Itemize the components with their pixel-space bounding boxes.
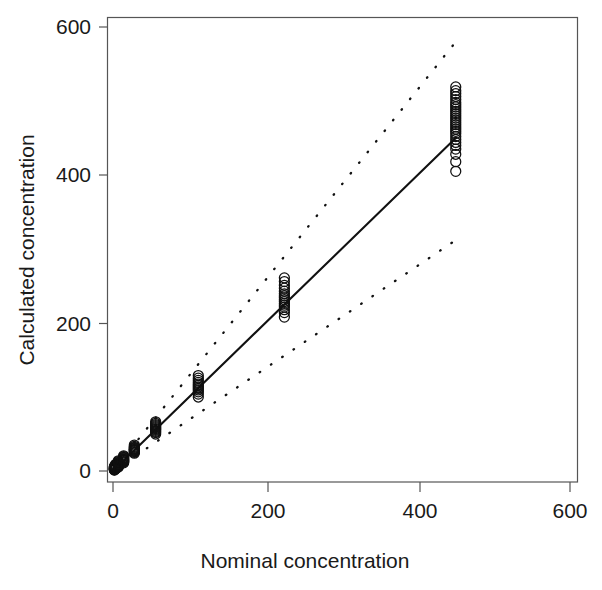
y-axis-ticks (99, 27, 108, 471)
y-axis-title: Calculated concentration (15, 134, 38, 365)
data-point (451, 166, 461, 176)
x-axis-ticks (113, 482, 570, 492)
lower-prediction-band (113, 240, 456, 471)
plot-frame (108, 18, 578, 483)
x-axis-title: Nominal concentration (201, 549, 410, 572)
y-tick-label-400: 400 (56, 163, 91, 186)
x-axis-tick-labels: 0 200 400 600 (107, 499, 587, 522)
y-tick-label-600: 600 (56, 15, 91, 38)
upper-prediction-band (113, 42, 456, 471)
x-tick-label-0: 0 (107, 499, 119, 522)
x-tick-label-200: 200 (250, 499, 285, 522)
scatter-plot-figure: 0 200 400 600 0 200 400 600 Nominal conc… (0, 0, 602, 590)
x-tick-label-400: 400 (402, 499, 437, 522)
y-tick-label-200: 200 (56, 312, 91, 335)
y-axis-tick-labels: 0 200 400 600 (56, 15, 91, 482)
y-tick-label-0: 0 (79, 459, 91, 482)
data-points-layer (109, 82, 460, 475)
prediction-bands-layer (113, 42, 456, 471)
x-tick-label-600: 600 (552, 499, 587, 522)
plot-canvas: 0 200 400 600 0 200 400 600 Nominal conc… (0, 0, 602, 590)
